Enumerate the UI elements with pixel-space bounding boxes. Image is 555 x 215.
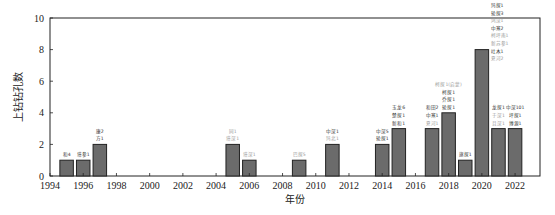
y-tick-label: 6 (39, 76, 44, 87)
x-tick-label: 2002 (173, 180, 193, 191)
bar-annotation: 吐木1 (491, 48, 504, 55)
bar-annotation: 乔探1 (442, 96, 455, 103)
bar-annotation: 夏河1 (426, 120, 439, 126)
x-tick-label: 2020 (472, 180, 492, 191)
bar-annotation: 旗探1 (459, 151, 472, 158)
bar-annotation: 玛探1 (491, 2, 504, 9)
y-axis-title: 上钻钻孔数 (12, 72, 24, 122)
bar-chart: 1994199619982000200220042006200820102012… (0, 0, 555, 215)
y-tick-label: 2 (39, 139, 44, 150)
x-tick-label: 1996 (73, 180, 93, 191)
bar-2014 (375, 144, 389, 176)
bar-2022 (508, 129, 521, 176)
bar-annotation: 玉龙6 (392, 104, 405, 111)
bar-annotation: 柯探1(启蒙) (435, 81, 462, 88)
bar-annotation: 鸿深1 (491, 17, 504, 24)
y-tick-label: 0 (39, 171, 44, 182)
bar-annotation: 楚探1 (392, 112, 405, 119)
bar-annotation: 中深101 (506, 104, 525, 111)
bar-2020 (475, 50, 489, 176)
bar-annotation: 坪探1 (509, 112, 522, 119)
bar-annotation: 塔深1 (226, 135, 239, 142)
y-tick-label: 8 (39, 44, 44, 55)
bar-annotation: 巴探5 (293, 151, 306, 157)
bar-annotation: 中深5 (376, 128, 389, 135)
bar-annotation: 中深1 (326, 128, 339, 135)
x-tick-label: 2004 (206, 180, 226, 191)
bar-annotation: 夏河2 (491, 55, 504, 61)
bar-2021 (492, 129, 506, 176)
x-tick-label: 2012 (339, 180, 359, 191)
bar-annotation: 方1 (96, 135, 104, 142)
x-tick-label: 2010 (306, 180, 326, 191)
x-tick-label: 2014 (372, 180, 392, 191)
bar-annotation: 和田2 (426, 104, 439, 111)
x-tick-label: 2016 (405, 180, 425, 191)
bar-annotation: 柯探1 (442, 89, 455, 95)
bar-2011 (326, 144, 340, 176)
x-tick-label: 1998 (106, 180, 126, 191)
x-tick-label: 2000 (140, 180, 160, 191)
bar-annotation: 且深1 (492, 120, 505, 127)
bar-annotation: 玛北1 (326, 135, 339, 142)
bar-annotation: 轮探1 (376, 135, 389, 142)
bar-annotation: 塔深1 (243, 151, 256, 158)
bar-annotation: 康2 (96, 128, 104, 134)
x-tick-label: 2008 (273, 180, 293, 191)
x-axis-title: 年份 (285, 193, 305, 205)
x-tick-label: 2006 (239, 180, 259, 191)
bar-annotation: 龙探1 (492, 104, 505, 111)
bar-2009 (292, 160, 306, 176)
bar-annotation: 轮探1 (442, 104, 455, 111)
bar-1997 (93, 144, 107, 176)
bar-2005 (226, 144, 240, 176)
x-tick-label: 2022 (505, 180, 525, 191)
bar-annotation: 和4 (63, 151, 71, 158)
x-tick-label: 2018 (439, 180, 459, 191)
bar-2015 (392, 129, 406, 176)
bar-annotation: 新苏参1 (491, 40, 509, 47)
y-tick-label: 4 (39, 107, 44, 118)
bar-annotation: 同1 (229, 129, 237, 135)
bar-annotation: 博源1 (509, 120, 522, 127)
bar-2019 (459, 160, 473, 176)
bar-annotation: 中寒1 (426, 112, 439, 119)
bar-2018 (442, 113, 456, 176)
bar-annotation: 轮探3 (491, 10, 504, 17)
bar-annotation: 塔参1 (77, 151, 90, 158)
bar-annotation: 中寒2 (491, 25, 504, 32)
bar-annotation: 于深1 (492, 112, 505, 119)
plot-area: 1994199619982000200220042006200820102012… (12, 2, 540, 205)
y-tick-label: 10 (34, 13, 44, 24)
x-tick-label: 1994 (40, 180, 60, 191)
bar-annotation: 柯坪南1 (491, 32, 509, 39)
bar-annotation: 新和1 (392, 120, 405, 127)
bar-2017 (425, 129, 439, 176)
bar-1995 (60, 160, 74, 176)
